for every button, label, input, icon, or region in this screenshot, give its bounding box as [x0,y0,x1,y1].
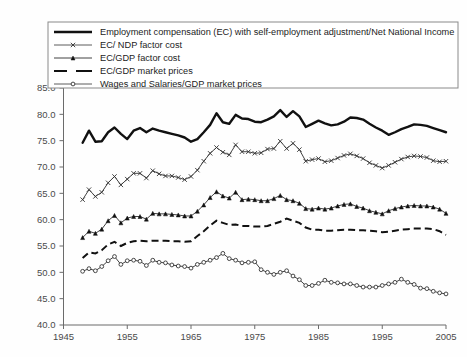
x-tick-label: 1985 [308,331,329,342]
x-tick-label: 1965 [180,331,201,342]
y-tick-label: 80.0 [37,109,56,120]
x-tick-label: 2005 [435,331,456,342]
y-tick-label: 60.0 [37,214,56,225]
y-tick-label: 50.0 [37,267,56,278]
x-tick-label: 1975 [244,331,265,342]
legend-item-label: EC/GDP factor cost [100,53,180,63]
y-tick-label: 70.0 [37,161,56,172]
chart-figure: 40.045.050.055.060.065.070.075.080.085.0… [0,0,467,357]
legend-item-label: Wages and Salaries/GDP market prices [100,79,262,89]
y-tick-label: 55.0 [37,240,56,251]
y-tick-label: 75.0 [37,135,56,146]
x-tick-label: 1945 [53,331,74,342]
legend-item-label: EC/ NDP factor cost [100,40,182,50]
x-tick-label: 1995 [372,331,393,342]
y-tick-label: 45.0 [37,293,56,304]
chart-legend: Employment compensation (EC) with self-e… [48,22,458,89]
y-tick-label: 40.0 [37,319,56,330]
x-tick-label: 1955 [117,331,138,342]
chart-canvas: 40.045.050.055.060.065.070.075.080.085.0… [0,0,467,357]
legend-item-label: EC/GDP market prices [100,66,193,76]
legend-item-label: Employment compensation (EC) with self-e… [100,27,454,37]
legend-item-0[interactable]: Employment compensation (EC) with self-e… [54,27,454,37]
y-tick-label: 65.0 [37,188,56,199]
